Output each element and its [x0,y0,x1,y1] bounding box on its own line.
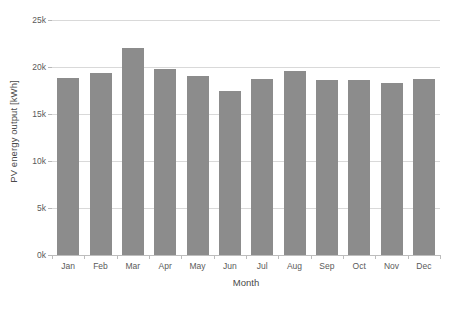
x-tick-mark [84,255,85,259]
x-tick-label-jul: Jul [257,261,268,271]
x-tick-mark [343,255,344,259]
y-tick-label: 10k [32,156,46,166]
x-tick-label-nov: Nov [384,261,399,271]
bar-sep [316,80,338,255]
bar-apr [154,69,176,255]
x-tick-label-sep: Sep [319,261,334,271]
y-axis-title: PV energy output [kWh] [2,0,24,262]
bar-nov [381,83,403,255]
pv-energy-bar-chart: PV energy output [kWh] 0k5k10k15k20k25k … [0,0,459,310]
bar-aug [284,71,306,255]
bar-jan [57,78,79,255]
bar-jul [251,79,273,255]
x-tick-mark [440,255,441,259]
x-tick-mark [52,255,53,259]
y-tick-label: 15k [32,109,46,119]
x-axis-title-label: Month [233,277,259,288]
x-tick-label-jan: Jan [61,261,75,271]
x-tick-mark [149,255,150,259]
x-tick-mark [246,255,247,259]
bars-layer [52,20,440,255]
bar-feb [90,73,112,255]
y-tick-label: 5k [37,203,46,213]
bar-dec [413,79,435,255]
y-tick-label: 25k [32,15,46,25]
bar-may [187,76,209,255]
x-axis-ticks: JanFebMarAprMayJunJulAugSepOctNovDec [52,255,440,275]
x-tick-label-feb: Feb [93,261,108,271]
x-tick-label-aug: Aug [287,261,302,271]
y-tick-label: 20k [32,62,46,72]
plot-area: 0k5k10k15k20k25k [52,20,440,255]
x-tick-mark [278,255,279,259]
x-tick-mark [408,255,409,259]
x-tick-mark [181,255,182,259]
x-tick-label-dec: Dec [416,261,431,271]
x-tick-mark [311,255,312,259]
y-axis-title-label: PV energy output [kWh] [8,80,19,183]
x-tick-mark [214,255,215,259]
x-tick-label-oct: Oct [353,261,366,271]
x-tick-label-jun: Jun [223,261,237,271]
x-tick-label-apr: Apr [159,261,172,271]
x-tick-mark [375,255,376,259]
x-axis-title: Month [52,277,440,288]
bar-mar [122,48,144,255]
x-tick-mark [117,255,118,259]
x-tick-label-may: May [189,261,205,271]
bar-oct [348,80,370,255]
x-tick-label-mar: Mar [126,261,141,271]
y-tick-label: 0k [37,250,46,260]
bar-jun [219,91,241,255]
